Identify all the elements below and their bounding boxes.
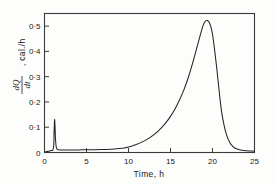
x-tick-label: 0 (42, 157, 47, 166)
y-tick-label: 0·1 (29, 123, 41, 132)
x-tick-label: 10 (124, 157, 133, 166)
x-tick-label: 5 (84, 157, 89, 166)
x-tick-label: 25 (250, 157, 259, 166)
y-tick-label: 0·3 (29, 73, 41, 82)
x-tick-label: 15 (166, 157, 175, 166)
y-axis-title-denominator: dt (22, 81, 32, 89)
y-tick-label: 0·2 (29, 98, 41, 107)
y-axis-title-numerator: dQ (11, 79, 21, 91)
y-tick-label: 0·4 (29, 47, 41, 56)
chart-plot: 00·10·20·30·40·5 0510152025 dQ dt , cal.… (0, 0, 278, 185)
y-axis-title-units: , cal./h (17, 39, 27, 66)
x-axis-title: Time, h (134, 169, 165, 179)
y-tick-label: 0·5 (29, 22, 41, 31)
x-tick-label: 20 (208, 157, 217, 166)
y-tick-label: 0 (36, 149, 41, 158)
figure-container: 00·10·20·30·40·5 0510152025 dQ dt , cal.… (0, 0, 278, 185)
